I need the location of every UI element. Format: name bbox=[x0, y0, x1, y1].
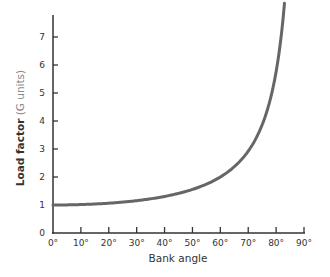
y-tick-label: 1 bbox=[39, 200, 45, 210]
y-tick-label: 5 bbox=[39, 88, 45, 98]
x-tick-label: 0° bbox=[48, 238, 58, 248]
x-tick-label: 50° bbox=[184, 238, 200, 248]
load-factor-chart: 01234567 0°10°20°30°40°50°60°70°80°90° B… bbox=[0, 0, 330, 277]
y-tick-label: 7 bbox=[39, 32, 45, 42]
x-tick-label: 60° bbox=[212, 238, 228, 248]
y-tick-label: 0 bbox=[39, 228, 45, 238]
x-axis-title: Bank angle bbox=[149, 252, 208, 264]
x-ticks: 0°10°20°30°40°50°60°70°80°90° bbox=[48, 227, 312, 248]
y-tick-label: 4 bbox=[39, 116, 45, 126]
x-tick-label: 10° bbox=[73, 238, 89, 248]
x-tick-label: 70° bbox=[240, 238, 256, 248]
y-tick-label: 6 bbox=[39, 60, 45, 70]
y-axis-title-unit: (G units) bbox=[14, 70, 26, 115]
x-tick-label: 90° bbox=[296, 238, 312, 248]
x-tick-label: 40° bbox=[157, 238, 173, 248]
y-axis-title: Load factor (G units) bbox=[14, 70, 26, 186]
x-tick-label: 20° bbox=[101, 238, 117, 248]
x-tick-label: 80° bbox=[268, 238, 284, 248]
y-ticks: 01234567 bbox=[39, 32, 58, 238]
y-tick-label: 3 bbox=[39, 144, 45, 154]
y-tick-label: 2 bbox=[39, 172, 45, 182]
load-factor-curve bbox=[53, 3, 284, 205]
y-axis-title-main: Load factor bbox=[14, 118, 26, 186]
x-tick-label: 30° bbox=[129, 238, 145, 248]
